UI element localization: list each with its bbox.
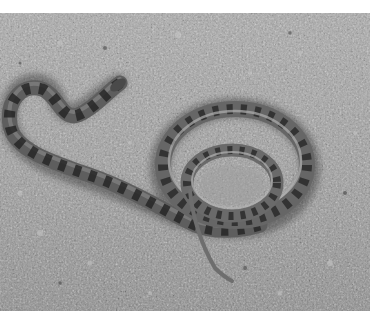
- snake-photograph: [0, 13, 370, 311]
- photo-canvas: [0, 13, 370, 311]
